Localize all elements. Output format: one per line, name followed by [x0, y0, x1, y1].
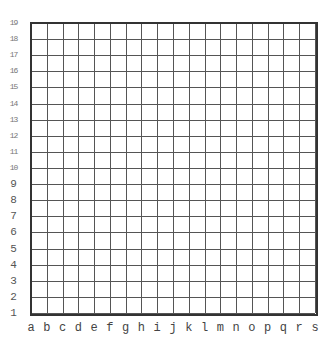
row-label: 2	[0, 291, 27, 303]
row-label: 6	[0, 226, 27, 238]
column-label: r	[291, 321, 307, 335]
column-label: b	[39, 321, 55, 335]
board-border	[30, 22, 318, 316]
row-label: 14	[0, 98, 27, 110]
row-label: 13	[0, 114, 27, 126]
go-board[interactable]	[31, 23, 315, 313]
row-label: 15	[0, 81, 27, 93]
row-label: 8	[0, 194, 27, 206]
row-label: 17	[0, 49, 27, 61]
column-label: f	[102, 321, 118, 335]
column-label: s	[307, 321, 323, 335]
row-label: 5	[0, 243, 27, 255]
row-label: 9	[0, 178, 27, 190]
column-label: q	[275, 321, 291, 335]
column-label: j	[165, 321, 181, 335]
column-label: o	[244, 321, 260, 335]
column-label: p	[260, 321, 276, 335]
row-label: 11	[0, 146, 27, 158]
column-label: a	[23, 321, 39, 335]
column-label: i	[149, 321, 165, 335]
row-label: 3	[0, 275, 27, 287]
row-label: 19	[0, 17, 27, 29]
row-label: 12	[0, 130, 27, 142]
column-label: l	[197, 321, 213, 335]
row-label: 7	[0, 210, 27, 222]
row-label: 1	[0, 307, 27, 319]
column-label: e	[86, 321, 102, 335]
column-label: n	[228, 321, 244, 335]
row-label: 10	[0, 162, 27, 174]
column-label: c	[55, 321, 71, 335]
column-label: k	[181, 321, 197, 335]
column-label: g	[118, 321, 134, 335]
column-label: m	[212, 321, 228, 335]
row-label: 16	[0, 65, 27, 77]
column-label: h	[133, 321, 149, 335]
row-label: 4	[0, 259, 27, 271]
column-label: d	[70, 321, 86, 335]
row-label: 18	[0, 33, 27, 45]
